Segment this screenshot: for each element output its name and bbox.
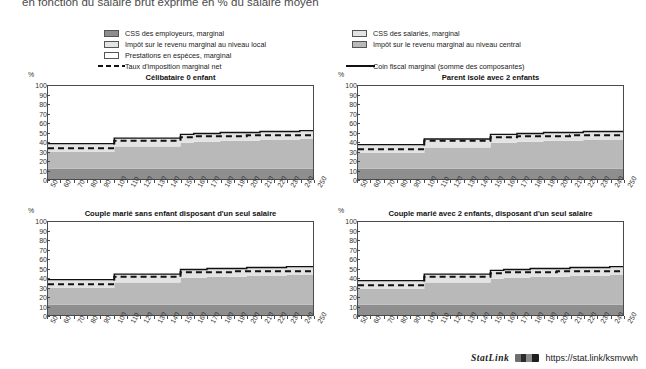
y-tick-label: 30 <box>341 148 357 155</box>
x-tick-mark <box>154 316 155 319</box>
y-tick-label: 100 <box>31 218 47 225</box>
y-tick-mark <box>357 278 360 279</box>
legend-swatch-employee-sc-icon <box>352 30 367 37</box>
page-title: en fonction du salaire brut exprimé en %… <box>22 0 442 8</box>
legend-label-employee-sc: CSS des salariés, marginal <box>373 29 460 38</box>
x-tick-mark <box>557 180 558 183</box>
x-tick-mark <box>584 316 585 319</box>
plot-area-panel-4 <box>357 221 624 316</box>
y-tick-mark <box>357 104 360 105</box>
x-axis-panel-4: 5060708090100110120130140150160170180190… <box>357 316 624 342</box>
y-tick-label: 10 <box>31 303 47 310</box>
statlink-url[interactable]: https://stat.link/ksmvwh <box>545 353 638 363</box>
x-tick-mark <box>287 316 288 319</box>
y-axis-panel-2: 0102030405060708090100 <box>337 85 357 180</box>
y-tick-mark <box>47 297 50 298</box>
x-tick-mark <box>127 316 128 319</box>
legend-right: CSS des salariés, marginal Impôt sur le … <box>352 28 524 72</box>
y-tick-mark <box>357 85 360 86</box>
x-tick-mark <box>424 316 425 319</box>
x-tick-mark <box>261 316 262 319</box>
y-tick-label: 0 <box>31 177 47 184</box>
y-axis-unit-panel-3: % <box>28 207 34 214</box>
legend-left: CSS des employeurs, marginal Impôt sur l… <box>104 28 266 72</box>
x-tick-mark <box>517 180 518 183</box>
x-tick-mark <box>370 180 371 183</box>
y-tick-mark <box>47 161 50 162</box>
x-tick-mark <box>437 180 438 183</box>
y-tick-label: 80 <box>31 101 47 108</box>
legend-dashed-line-icon <box>104 62 119 70</box>
y-tick-label: 70 <box>341 246 357 253</box>
x-tick-mark <box>314 316 315 319</box>
x-tick-label: 80 <box>399 178 409 188</box>
y-tick-label: 40 <box>341 275 357 282</box>
y-tick-mark <box>47 250 50 251</box>
legend-label-net-marginal-rate: Taux d'imposition marginal net <box>125 62 221 71</box>
y-tick-label: 90 <box>31 227 47 234</box>
x-tick-mark <box>247 180 248 183</box>
y-tick-mark <box>357 152 360 153</box>
x-tick-mark <box>74 316 75 319</box>
y-tick-label: 0 <box>341 313 357 320</box>
y-tick-mark <box>47 171 50 172</box>
x-tick-mark <box>100 180 101 183</box>
panel-title-1: Célibataire 0 enfant <box>47 73 314 82</box>
legend-swatch-cash-benefits-icon <box>104 52 119 59</box>
x-tick-mark <box>531 316 532 319</box>
statlink-label: StatLink <box>471 353 510 363</box>
x-tick-mark <box>47 316 48 319</box>
x-tick-mark <box>571 316 572 319</box>
x-tick-mark <box>611 316 612 319</box>
x-tick-label: 90 <box>412 314 422 324</box>
x-tick-mark <box>194 316 195 319</box>
plot-area-panel-3 <box>47 221 314 316</box>
x-tick-label: 60 <box>62 178 72 188</box>
x-axis-panel-1: 5060708090100110120130140150160170180190… <box>47 180 314 206</box>
y-tick-label: 100 <box>341 82 357 89</box>
x-tick-mark <box>154 180 155 183</box>
y-tick-label: 100 <box>31 82 47 89</box>
y-axis-panel-3: 0102030405060708090100 <box>27 221 47 316</box>
x-tick-mark <box>234 180 235 183</box>
x-tick-mark <box>477 316 478 319</box>
x-tick-label: 250 <box>316 311 328 325</box>
x-tick-mark <box>234 316 235 319</box>
legend-swatch-local-income-tax-icon <box>104 41 119 48</box>
x-tick-mark <box>194 180 195 183</box>
x-tick-label: 90 <box>102 178 112 188</box>
y-tick-label: 10 <box>31 167 47 174</box>
y-tick-label: 70 <box>341 110 357 117</box>
y-tick-label: 20 <box>31 158 47 165</box>
x-tick-label: 250 <box>626 311 638 325</box>
x-tick-mark <box>464 180 465 183</box>
y-tick-mark <box>357 123 360 124</box>
y-axis-panel-1: 0102030405060708090100 <box>27 85 47 180</box>
y-tick-mark <box>47 142 50 143</box>
y-tick-label: 20 <box>31 294 47 301</box>
legend-item-employer-sc: CSS des employeurs, marginal <box>104 28 266 38</box>
y-tick-label: 80 <box>341 237 357 244</box>
x-tick-mark <box>74 180 75 183</box>
y-tick-mark <box>47 307 50 308</box>
x-tick-label: 50 <box>359 314 369 324</box>
x-tick-mark <box>261 180 262 183</box>
x-tick-mark <box>87 316 88 319</box>
y-tick-label: 40 <box>341 139 357 146</box>
y-tick-mark <box>357 288 360 289</box>
legend-label-local-income-tax: Impôt sur le revenu marginal au niveau l… <box>125 40 266 49</box>
x-tick-mark <box>584 180 585 183</box>
legend-label-central-income-tax: Impôt sur le revenu marginal au niveau c… <box>373 40 521 49</box>
y-tick-label: 0 <box>31 313 47 320</box>
x-tick-mark <box>491 316 492 319</box>
y-tick-mark <box>47 231 50 232</box>
y-tick-mark <box>47 240 50 241</box>
x-tick-mark <box>437 316 438 319</box>
x-tick-mark <box>181 180 182 183</box>
x-tick-label: 250 <box>626 175 638 189</box>
x-tick-mark <box>221 180 222 183</box>
y-axis-unit-panel-2: % <box>338 71 344 78</box>
x-tick-mark <box>544 180 545 183</box>
panel-title-4: Couple marié avec 2 enfants, disposant d… <box>357 209 624 218</box>
x-tick-label: 60 <box>372 314 382 324</box>
